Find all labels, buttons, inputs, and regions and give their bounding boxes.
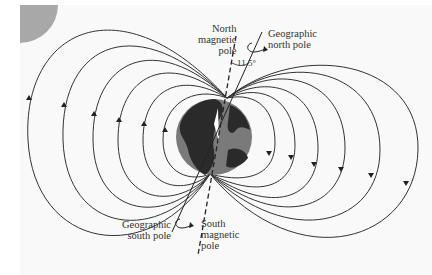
label-line: north pole: [268, 39, 317, 50]
geographic-south-pole-label: Geographic south pole: [122, 219, 171, 241]
label-line: Geographic: [122, 219, 171, 230]
label-line: Geographic: [268, 28, 317, 39]
label-line: magnetic: [198, 34, 236, 45]
geographic-north-pole-label: Geographic north pole: [268, 28, 317, 50]
label-line: North: [206, 23, 236, 34]
label-line: pole: [206, 45, 236, 56]
south-rotation-arrowhead-icon: [189, 222, 194, 228]
label-line: magnetic: [201, 229, 239, 240]
angle-label: 11.5°: [237, 58, 256, 69]
diagram-stage: North magnetic pole Geographic north pol…: [0, 0, 432, 275]
north-magnetic-pole-label: North magnetic pole: [206, 23, 236, 56]
corner-shape: [20, 5, 58, 43]
left-arrow-icons: [26, 95, 168, 132]
label-line: south pole: [122, 230, 171, 241]
label-line: pole: [201, 240, 239, 251]
south-magnetic-pole-label: South magnetic pole: [201, 218, 239, 251]
label-line: South: [201, 218, 239, 229]
